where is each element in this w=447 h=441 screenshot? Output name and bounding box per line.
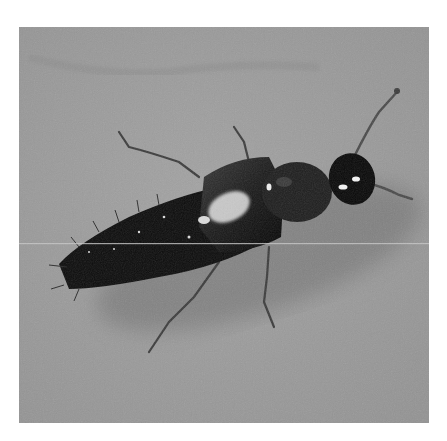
beetle-photo (19, 27, 429, 423)
beetle-illustration (19, 27, 429, 423)
